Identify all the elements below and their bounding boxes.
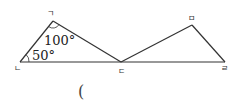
angle-label-g: 100° [44,33,75,48]
segment-m-r [192,25,225,62]
vertex-label-g: ㄱ [47,9,54,18]
triangle-diagram: ㄱ ㄴ ㄷ ㅁ ㄹ 100° 50° [0,0,243,105]
vertex-label-n: ㄴ [14,64,21,73]
vertex-label-d: ㄷ [118,67,125,76]
answer-paren: ( [78,82,84,101]
vertex-label-r: ㄹ [221,64,228,73]
segment-d-m [121,25,192,62]
angle-arc-n [26,55,29,63]
vertex-label-m: ㅁ [188,14,195,23]
angle-label-n: 50° [32,48,55,63]
